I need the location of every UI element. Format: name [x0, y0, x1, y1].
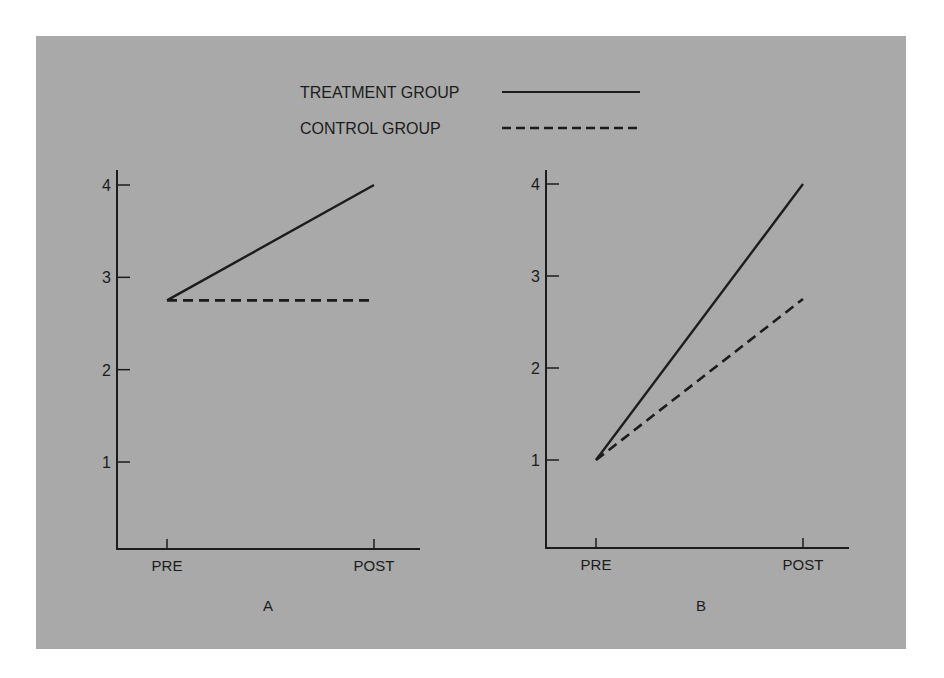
series-lines — [167, 185, 374, 300]
legend: TREATMENT GROUP CONTROL GROUP — [300, 84, 640, 137]
x-ticks: PREPOST — [152, 539, 395, 574]
x-tick-label: POST — [354, 557, 395, 574]
legend-label-treatment: TREATMENT GROUP — [300, 84, 459, 101]
chart-b: 1234 PREPOST B — [531, 170, 849, 614]
treatment-group-line — [167, 185, 374, 300]
y-tick-label: 3 — [102, 269, 111, 286]
x-ticks: PREPOST — [581, 538, 824, 573]
x-tick-label: PRE — [581, 556, 612, 573]
series-lines — [596, 184, 803, 460]
chart-title-b: B — [696, 597, 706, 614]
treatment-group-line — [596, 184, 803, 460]
figure: TREATMENT GROUP CONTROL GROUP 1234 PREPO… — [0, 0, 944, 678]
y-tick-label: 1 — [531, 452, 540, 469]
y-tick-label: 4 — [531, 176, 540, 193]
chart-title-a: A — [263, 597, 273, 614]
legend-label-control: CONTROL GROUP — [300, 120, 441, 137]
y-tick-label: 3 — [531, 268, 540, 285]
x-tick-label: PRE — [152, 557, 183, 574]
y-tick-label: 4 — [102, 177, 111, 194]
y-tick-label: 1 — [102, 454, 111, 471]
x-tick-label: POST — [783, 556, 824, 573]
y-tick-label: 2 — [531, 360, 540, 377]
y-tick-label: 2 — [102, 362, 111, 379]
chart-a: 1234 PREPOST A — [102, 170, 420, 614]
